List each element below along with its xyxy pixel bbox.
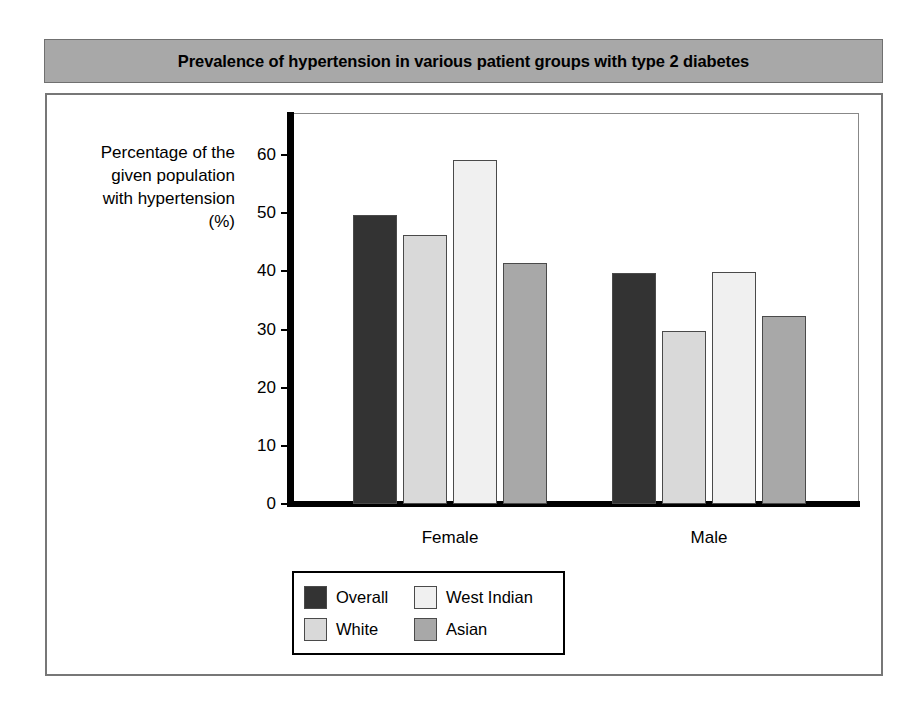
y-tick-label: 0 — [240, 494, 276, 514]
bar — [503, 263, 547, 504]
legend-label-overall: Overall — [336, 588, 388, 607]
y-tick-label: 20 — [240, 378, 276, 398]
chart-title-banner: Prevalence of hypertension in various pa… — [44, 39, 883, 83]
chart-legend: Overall West Indian White Asian — [292, 571, 565, 655]
legend-row: Overall West Indian — [304, 581, 553, 613]
legend-label-white: White — [336, 620, 378, 639]
bar — [762, 316, 806, 504]
y-tick-label: 40 — [240, 261, 276, 281]
figure-root: Prevalence of hypertension in various pa… — [0, 0, 919, 709]
y-axis-title: Percentage of the given population with … — [60, 141, 235, 233]
y-axis-title-line-3: with hypertension — [60, 187, 235, 210]
y-axis-title-line-1: Percentage of the — [60, 141, 235, 164]
bar — [353, 215, 397, 504]
x-axis-group-label: Female — [422, 528, 479, 548]
legend-swatch-west-indian — [414, 586, 437, 609]
y-axis-line — [287, 112, 294, 506]
bar — [453, 160, 497, 504]
y-tick-label: 60 — [240, 145, 276, 165]
legend-item-west-indian: West Indian — [414, 586, 533, 609]
x-axis-group-label: Male — [691, 528, 728, 548]
bar — [662, 331, 706, 504]
legend-label-west-indian: West Indian — [446, 588, 533, 607]
y-tick-label: 10 — [240, 436, 276, 456]
y-tick-label: 50 — [240, 203, 276, 223]
legend-item-asian: Asian — [414, 618, 487, 641]
legend-swatch-asian — [414, 618, 437, 641]
legend-label-asian: Asian — [446, 620, 487, 639]
bar — [712, 272, 756, 504]
page-title: Prevalence of hypertension in various pa… — [178, 52, 749, 71]
y-axis-title-line-2: given population — [60, 164, 235, 187]
bar — [403, 235, 447, 504]
bar — [612, 273, 656, 504]
legend-swatch-overall — [304, 586, 327, 609]
y-tick-label: 30 — [240, 320, 276, 340]
legend-swatch-white — [304, 618, 327, 641]
legend-item-white: White — [304, 618, 414, 641]
y-axis-title-line-4: (%) — [60, 210, 235, 233]
legend-row: White Asian — [304, 613, 553, 645]
legend-item-overall: Overall — [304, 586, 414, 609]
